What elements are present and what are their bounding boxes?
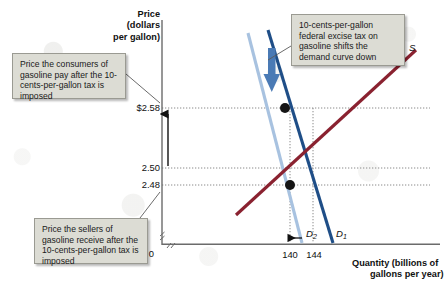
point-seller-price	[285, 180, 295, 190]
callout-seller-price: Price the sellers of gasoline receive af…	[34, 218, 148, 264]
point-consumer-price	[280, 103, 290, 113]
y-axis-title-line1: Price	[78, 9, 160, 20]
leader-line-consumers	[126, 74, 160, 103]
figure-canvas: Price (dollars per gallon) Quantity (bil…	[0, 0, 444, 285]
curve-label-demand-original-sub: 1	[343, 233, 347, 240]
curve-label-demand-shifted-letter: D	[306, 228, 313, 239]
curve-label-demand-original-letter: D	[336, 228, 343, 239]
curve-label-demand-shifted-sub: 2	[313, 233, 317, 240]
y-axis-title-line3: per gallon)	[78, 32, 160, 43]
y-tick-label-248: 2.48	[110, 179, 160, 190]
x-axis-title-line2: gallons per year)	[352, 269, 444, 280]
y-axis-title-line2: (dollars	[78, 20, 160, 31]
curve-label-demand-shifted: D2	[306, 228, 317, 240]
y-tick-label-250: 2.50	[110, 162, 160, 173]
curve-label-supply: S	[409, 42, 415, 53]
x-axis-title: Quantity (billions of gallons per year)	[352, 258, 444, 281]
leader-line-sellers	[140, 192, 160, 218]
y-axis-title: Price (dollars per gallon)	[78, 9, 160, 43]
callout-excise-tax: 10-cents-per-gallon federal excise tax o…	[291, 14, 405, 66]
y-tick-label-258: $2.58	[110, 102, 160, 113]
curve-supply	[236, 50, 416, 215]
curve-label-demand-original: D1	[336, 228, 347, 240]
callout-consumer-price: Price the consumers of gasoline pay afte…	[12, 53, 126, 99]
x-axis-title-line1: Quantity (billions of	[352, 258, 444, 269]
x-tick-label-144: 144	[298, 249, 330, 260]
